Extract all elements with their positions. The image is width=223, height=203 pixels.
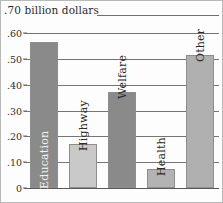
y-tick-label: .50: [0, 53, 22, 64]
y-tick-label: .60: [0, 28, 22, 39]
y-tick-mark: [23, 33, 27, 34]
plot-area: EducationHighwayWelfareHealthOther: [24, 33, 219, 188]
y-tick-mark: [23, 110, 27, 111]
y-tick-label: .40: [0, 79, 22, 90]
unit-caption: .70 billion dollars: [4, 4, 99, 16]
category-label-education: Education: [38, 131, 51, 189]
bar-other: [186, 55, 214, 188]
y-tick-label: .30: [0, 105, 22, 116]
category-label-highway: Highway: [77, 100, 90, 151]
y-tick-label: .20: [0, 131, 22, 142]
category-label-welfare: Welfare: [116, 55, 129, 99]
y-tick-mark: [23, 84, 27, 85]
y-axis-ticks: .60.50.40.30.20.100: [0, 33, 22, 188]
gridline: [24, 33, 219, 34]
y-tick-mark: [23, 162, 27, 163]
y-tick-mark: [23, 188, 27, 189]
bar-welfare: [108, 92, 136, 188]
y-tick-mark: [23, 58, 27, 59]
category-label-other: Other: [194, 29, 207, 62]
y-tick-label: 0: [0, 183, 22, 194]
bar-chart-figure: .70 billion dollars .60.50.40.30.20.100 …: [0, 0, 223, 203]
y-tick-mark: [23, 136, 27, 137]
category-label-health: Health: [155, 138, 168, 177]
caption-rule: [97, 15, 219, 16]
y-tick-label: .10: [0, 157, 22, 168]
axis-baseline: [24, 188, 219, 189]
